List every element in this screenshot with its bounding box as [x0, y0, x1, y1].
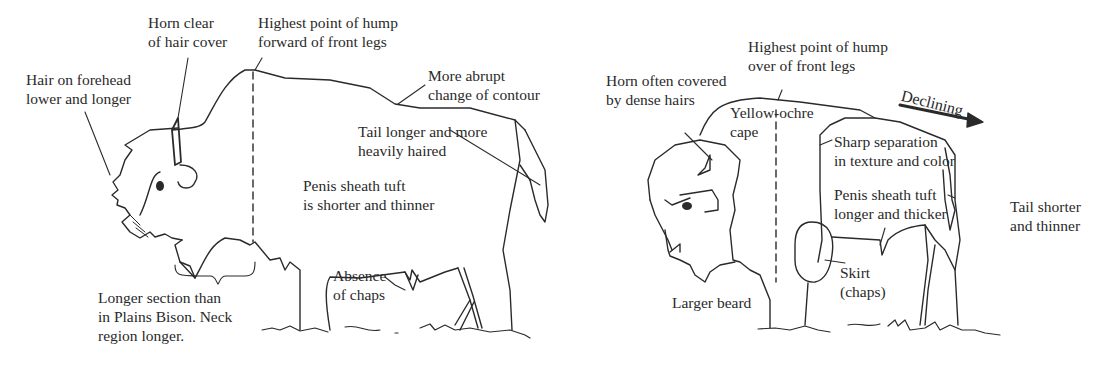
label-right-skirt: Skirt(chaps) [840, 263, 886, 301]
label-right-tail: Tail shorterand thinner [1010, 197, 1081, 235]
label-left-horn: Horn clearof hair cover [148, 13, 227, 51]
label-left-chaps: Absenceof chaps [333, 266, 386, 304]
label-left-hump: Highest point of humpforward of front le… [258, 13, 398, 51]
label-left-sheath: Penis sheath tuftis shorter and thinner [303, 176, 434, 214]
label-left-forehead: Hair on foreheadlower and longer [26, 70, 131, 108]
label-right-beard: Larger beard [672, 293, 751, 312]
label-right-cape: Yellow-ochrecape [730, 103, 814, 141]
label-right-hump: Highest point of humpover of front legs [748, 37, 888, 75]
label-left-tail: Tail longer and moreheavily haired [358, 122, 487, 160]
label-right-sheath: Penis sheath tuftlonger and thicker [834, 185, 947, 223]
label-left-neck: Longer section thanin Plains Bison. Neck… [98, 288, 232, 345]
label-right-separation: Sharp separationin texture and color [834, 132, 955, 170]
label-left-contour: More abruptchange of contour [428, 66, 540, 104]
label-right-horn: Horn often coveredby dense hairs [606, 71, 727, 109]
